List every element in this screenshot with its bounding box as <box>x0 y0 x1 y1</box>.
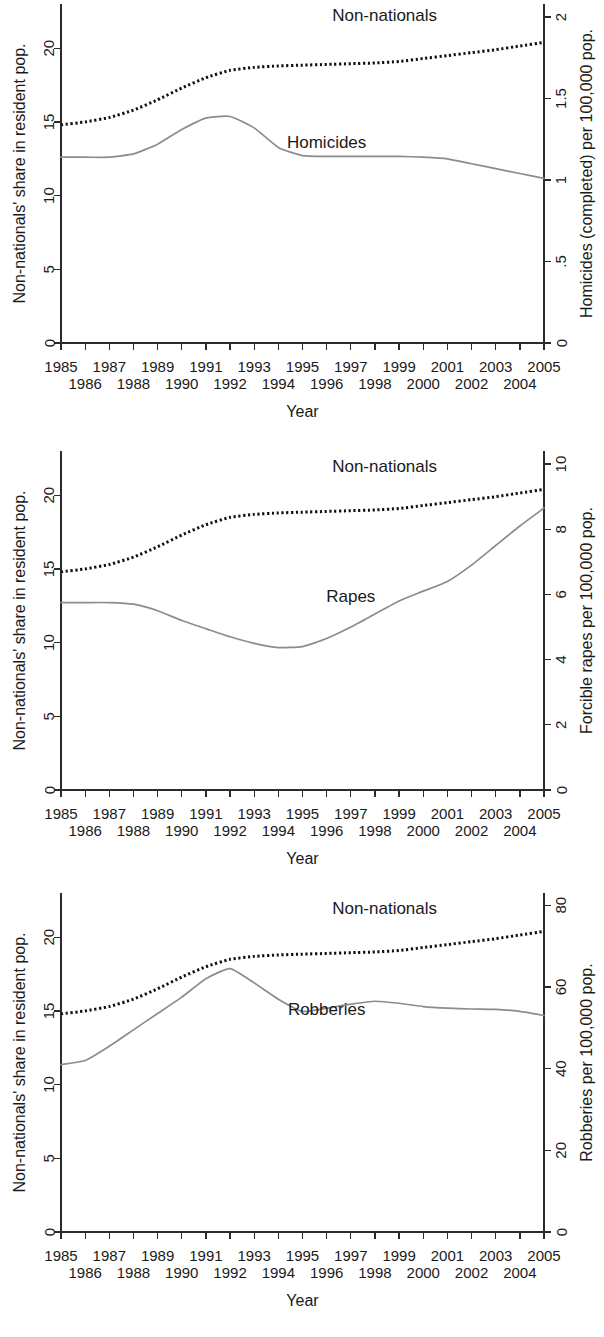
x-axis-tick-labels: 1985198719891991199319951997199920012003… <box>44 358 560 392</box>
right-tick-label: 0 <box>553 339 570 347</box>
right-tick-label: 60 <box>553 979 570 996</box>
left-tick-label: 15 <box>41 1003 58 1020</box>
x-tick-label-top: 1995 <box>286 1247 319 1264</box>
multi-panel-line-chart-figure: 05101520Non-nationals' share in resident… <box>0 0 604 1337</box>
x-tick-label-top: 1993 <box>238 1247 271 1264</box>
x-tick-label-bottom: 2002 <box>455 375 488 392</box>
x-tick-label-top: 1997 <box>334 1247 367 1264</box>
x-tick-label-bottom: 1994 <box>262 822 295 839</box>
x-tick-label-bottom: 1998 <box>358 375 391 392</box>
left-tick-label: 0 <box>41 786 58 794</box>
x-tick-label-top: 1997 <box>334 358 367 375</box>
left-axis-title: Non-nationals' share in resident pop. <box>11 490 28 750</box>
x-tick-label-top: 1985 <box>44 358 77 375</box>
left-tick-label: 15 <box>41 114 58 131</box>
right-axis-title: Robberies per 100,000 pop. <box>578 963 595 1161</box>
x-tick-label-top: 2005 <box>527 1247 560 1264</box>
x-tick-label-top: 2005 <box>527 805 560 822</box>
chart-panel-robberies: 05101520Non-nationals' share in resident… <box>0 889 604 1337</box>
x-tick-label-bottom: 1992 <box>213 822 246 839</box>
x-tick-label-top: 1991 <box>189 358 222 375</box>
x-axis-tick-labels: 1985198719891991199319951997199920012003… <box>44 1247 560 1281</box>
right-tick-label: 6 <box>553 590 570 598</box>
x-tick-label-bottom: 1988 <box>117 822 150 839</box>
series-line-non-nationals <box>61 42 544 125</box>
x-axis-tick-labels: 1985198719891991199319951997199920012003… <box>44 805 560 839</box>
series-annotation-non-nationals: Non-nationals <box>332 899 437 918</box>
left-tick-label: 10 <box>41 187 58 204</box>
series-line-rapes <box>61 508 544 648</box>
left-axis-ticks: 05101520 <box>41 929 62 1236</box>
x-tick-label-top: 1989 <box>141 358 174 375</box>
x-tick-label-bottom: 2000 <box>407 375 440 392</box>
right-axis-title: Homicides (completed) per 100,000 pop. <box>578 29 595 318</box>
x-tick-label-top: 2003 <box>479 1247 512 1264</box>
right-axis-ticks: 0246810 <box>544 456 570 794</box>
x-tick-label-bottom: 1986 <box>68 375 101 392</box>
chart-svg: 05101520Non-nationals' share in resident… <box>0 0 604 445</box>
left-tick-label: 20 <box>41 40 58 57</box>
x-tick-label-top: 2005 <box>527 358 560 375</box>
x-tick-label-bottom: 1986 <box>68 1264 101 1281</box>
left-axis-ticks: 05101520 <box>41 487 62 794</box>
series-annotation-non-nationals: Non-nationals <box>332 457 437 476</box>
x-tick-label-top: 1999 <box>382 805 415 822</box>
left-axis-title: Non-nationals' share in resident pop. <box>11 43 28 303</box>
x-axis-title: Year <box>286 403 319 420</box>
x-tick-label-bottom: 1990 <box>165 375 198 392</box>
axes-group <box>61 4 544 343</box>
right-tick-label: 80 <box>553 897 570 914</box>
x-tick-label-top: 2001 <box>431 1247 464 1264</box>
right-tick-label: 2 <box>553 721 570 729</box>
x-tick-label-top: 1993 <box>238 358 271 375</box>
x-tick-label-top: 1987 <box>93 358 126 375</box>
left-tick-label: 5 <box>41 712 58 720</box>
x-tick-label-bottom: 2004 <box>503 375 536 392</box>
x-tick-label-bottom: 2002 <box>455 822 488 839</box>
x-tick-label-bottom: 1994 <box>262 1264 295 1281</box>
right-tick-label: 20 <box>553 1142 570 1159</box>
x-tick-label-bottom: 1990 <box>165 1264 198 1281</box>
x-tick-label-top: 1995 <box>286 805 319 822</box>
right-tick-label: 0 <box>553 1228 570 1236</box>
x-tick-label-bottom: 2000 <box>407 1264 440 1281</box>
right-tick-label: 8 <box>553 525 570 533</box>
series-line-non-nationals <box>61 489 544 572</box>
x-tick-label-top: 1991 <box>189 805 222 822</box>
x-tick-label-top: 1995 <box>286 358 319 375</box>
left-tick-label: 20 <box>41 487 58 504</box>
right-tick-label: 1.5 <box>553 88 570 109</box>
left-tick-label: 15 <box>41 561 58 578</box>
axes-group <box>61 893 544 1232</box>
left-tick-label: 10 <box>41 634 58 651</box>
x-tick-label-top: 2001 <box>431 358 464 375</box>
x-tick-label-top: 1985 <box>44 1247 77 1264</box>
left-tick-label: 5 <box>41 265 58 273</box>
chart-svg: 05101520Non-nationals' share in resident… <box>0 447 604 892</box>
right-tick-label: 40 <box>553 1060 570 1077</box>
series-annotation-non-nationals: Non-nationals <box>332 6 437 25</box>
x-tick-label-top: 1997 <box>334 805 367 822</box>
x-tick-label-bottom: 1992 <box>213 1264 246 1281</box>
series-annotation-homicides: Homicides <box>287 133 366 152</box>
right-tick-label: 1 <box>553 176 570 184</box>
x-tick-label-bottom: 1994 <box>262 375 295 392</box>
right-tick-label: 0 <box>553 786 570 794</box>
chart-panel-homicides: 05101520Non-nationals' share in resident… <box>0 0 604 445</box>
right-axis-ticks: 0.511.52 <box>544 13 570 347</box>
x-axis-ticks <box>61 343 544 350</box>
right-tick-label: 4 <box>553 655 570 663</box>
left-axis-ticks: 05101520 <box>41 40 62 347</box>
x-tick-label-bottom: 1996 <box>310 1264 343 1281</box>
chart-svg: 05101520Non-nationals' share in resident… <box>0 889 604 1337</box>
x-tick-label-top: 1987 <box>93 1247 126 1264</box>
left-tick-label: 0 <box>41 339 58 347</box>
x-tick-label-bottom: 1986 <box>68 822 101 839</box>
x-tick-label-top: 1993 <box>238 805 271 822</box>
x-axis-title: Year <box>286 1292 319 1309</box>
left-tick-label: 20 <box>41 929 58 946</box>
series-annotations: Non-nationalsRobberies <box>288 899 437 1020</box>
right-axis-ticks: 020406080 <box>544 897 570 1236</box>
series-annotation-rapes: Rapes <box>326 587 375 606</box>
series-group <box>61 931 544 1064</box>
